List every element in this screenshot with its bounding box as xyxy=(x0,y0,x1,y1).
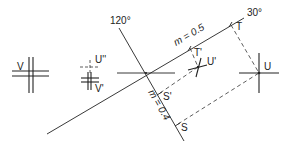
label-t-prime: T' xyxy=(194,47,202,58)
label-v: V xyxy=(17,61,24,72)
projection-t-to-u xyxy=(231,25,259,73)
axis-30-degree xyxy=(47,18,244,134)
label-axis-30: 30° xyxy=(247,7,262,18)
projection-s-prime-to-u-prime xyxy=(160,67,198,93)
label-t: T xyxy=(236,21,242,32)
label-v-prime: V' xyxy=(95,83,104,94)
label-axis-120: 120° xyxy=(110,15,131,26)
label-u: U xyxy=(264,61,271,72)
label-u-prime: U' xyxy=(207,56,216,67)
label-s: S xyxy=(181,122,188,133)
projection-s-to-u xyxy=(178,73,259,124)
u-cross xyxy=(239,53,279,93)
u-prime-cross xyxy=(188,58,207,77)
label-scale-m05: m = 0.5 xyxy=(172,21,207,48)
label-u-double-prime: U'' xyxy=(95,54,106,65)
origin-point xyxy=(145,72,147,74)
axis-120-degree xyxy=(119,28,184,141)
label-s-prime: S' xyxy=(163,91,172,102)
axes-projection-diagram: V U'' V' 30° m = 0.5 120° m = 0.4 T T' S… xyxy=(0,0,291,147)
